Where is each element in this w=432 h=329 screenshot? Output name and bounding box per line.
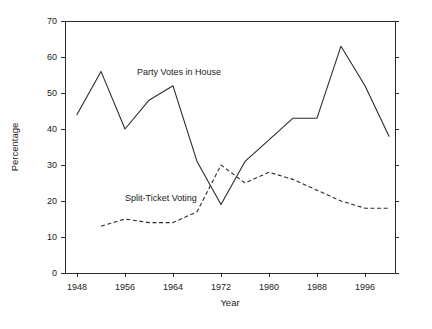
line-chart-plot: 010203040506070 194819561964197219801988… xyxy=(0,0,432,329)
x-tick-label: 1964 xyxy=(163,282,183,292)
x-tick-label: 1996 xyxy=(355,282,375,292)
x-axis-tick-labels: 1948195619641972198019881996 xyxy=(67,282,375,292)
x-tick-label: 1988 xyxy=(307,282,327,292)
y-axis-tick-labels: 010203040506070 xyxy=(47,16,57,278)
y-tick-label: 40 xyxy=(47,124,57,134)
y-tick-label: 30 xyxy=(47,160,57,170)
y-tick-label: 20 xyxy=(47,196,57,206)
series-line-party-votes-in-house xyxy=(77,46,389,204)
chart-series-lines xyxy=(77,46,389,226)
x-tick-label: 1972 xyxy=(211,282,231,292)
chart-figure: 010203040506070 194819561964197219801988… xyxy=(0,0,432,329)
series-annotation-label: Split-Ticket Voting xyxy=(125,193,197,203)
x-tick-label: 1980 xyxy=(259,282,279,292)
series-annotation-label: Party Votes in House xyxy=(137,67,221,77)
y-tick-label: 50 xyxy=(47,88,57,98)
x-tick-label: 1948 xyxy=(67,282,87,292)
chart-axes xyxy=(65,21,395,273)
y-tick-label: 10 xyxy=(47,232,57,242)
x-axis-title: Year xyxy=(220,297,239,308)
x-tick-label: 1956 xyxy=(115,282,135,292)
plot-frame xyxy=(65,21,395,273)
y-tick-label: 70 xyxy=(47,16,57,26)
y-tick-label: 60 xyxy=(47,52,57,62)
chart-tick-marks xyxy=(61,21,399,277)
y-axis-title: Percentage xyxy=(9,123,20,172)
y-tick-label: 0 xyxy=(52,268,57,278)
